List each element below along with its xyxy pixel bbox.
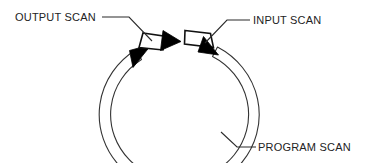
output-scan-label: OUTPUT SCAN — [15, 11, 96, 23]
input-scan-label: INPUT SCAN — [253, 14, 321, 26]
program-scan-label: PROGRAM SCAN — [258, 141, 351, 153]
scan-cycle-diagram: OUTPUT SCAN INPUT SCAN PROGRAM SCAN — [0, 0, 367, 163]
callout-input-scan: INPUT SCAN — [205, 14, 321, 43]
output-scan-arrowhead — [161, 31, 182, 51]
callout-output-scan: OUTPUT SCAN — [15, 11, 152, 41]
scan-cycle-illustration: OUTPUT SCAN INPUT SCAN PROGRAM SCAN — [0, 0, 367, 163]
